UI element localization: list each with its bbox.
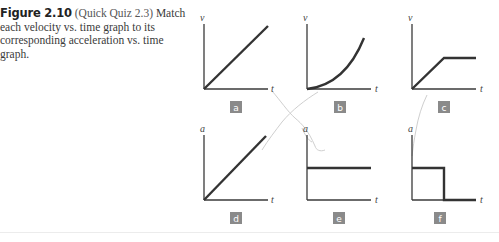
graph-e: a t e bbox=[303, 123, 378, 224]
graph-d-x-label: t bbox=[271, 194, 274, 205]
graph-a-x-label: t bbox=[271, 83, 274, 94]
graph-e-x-label: t bbox=[375, 194, 378, 205]
graph-f: a t f bbox=[408, 123, 483, 224]
graph-f-y-label: a bbox=[408, 123, 413, 134]
graph-c-x-label: t bbox=[480, 83, 483, 94]
graph-a: v t a bbox=[200, 12, 274, 113]
graph-e-y-label: a bbox=[303, 123, 308, 134]
graph-d-label: d bbox=[233, 214, 239, 224]
graph-d-y-label: a bbox=[200, 123, 205, 134]
graphs-figure: v t a v t b v t c a t d a bbox=[0, 0, 499, 242]
graph-d: a t d bbox=[200, 123, 274, 224]
graph-b: v t b bbox=[303, 12, 378, 113]
graph-a-label: a bbox=[233, 103, 239, 113]
graph-c: v t c bbox=[408, 12, 483, 113]
graph-b-y-label: v bbox=[303, 12, 308, 23]
graph-c-y-label: v bbox=[408, 12, 413, 23]
graph-c-label: c bbox=[442, 103, 447, 113]
graph-e-label: e bbox=[336, 214, 342, 224]
graph-b-x-label: t bbox=[375, 83, 378, 94]
graph-a-y-label: v bbox=[200, 12, 205, 23]
page-divider bbox=[0, 232, 499, 233]
graph-b-label: b bbox=[337, 103, 343, 113]
graph-f-x-label: t bbox=[480, 194, 483, 205]
annotation-lines bbox=[262, 91, 427, 156]
